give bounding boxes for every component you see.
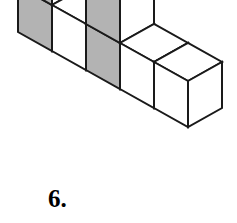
cube-left-face-shaded (18, 0, 52, 51)
cube-group (18, 0, 222, 127)
cube-figure-container: 6. (0, 0, 237, 223)
figure-number-label: 6. (48, 186, 67, 211)
isometric-cube-illustration (0, 0, 237, 223)
